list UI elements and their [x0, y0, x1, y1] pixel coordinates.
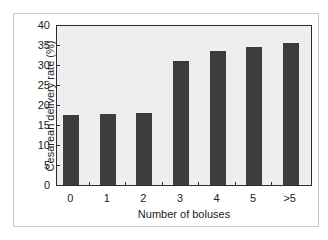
y-tick [56, 125, 60, 126]
y-tick [56, 25, 60, 26]
x-tick [198, 182, 199, 186]
y-tick-label: 35 [20, 40, 50, 51]
x-tick [89, 182, 90, 186]
x-tick [235, 182, 236, 186]
bar-2 [136, 113, 152, 185]
y-tick [56, 165, 60, 166]
x-tick [162, 182, 163, 186]
y-tick [56, 145, 60, 146]
x-tick-label: 3 [170, 192, 190, 204]
y-tick-label: 30 [20, 60, 50, 71]
y-tick-label: 15 [20, 120, 50, 131]
y-tick [56, 105, 60, 106]
y-tick [56, 85, 60, 86]
bar->5 [283, 43, 299, 185]
y-tick-label: 20 [20, 100, 50, 111]
bar-5 [246, 47, 262, 185]
x-tick-label: 4 [207, 192, 227, 204]
y-tick [56, 45, 60, 46]
y-tick-label: 25 [20, 80, 50, 91]
x-tick-label: 2 [133, 192, 153, 204]
y-tick [56, 65, 60, 66]
x-tick [125, 182, 126, 186]
bar-1 [100, 114, 116, 185]
y-tick-label: 0 [20, 180, 50, 191]
x-axis-label: Number of boluses [56, 208, 312, 220]
x-tick-label: 0 [60, 192, 80, 204]
plot-area [56, 25, 312, 186]
y-tick-label: 40 [20, 20, 50, 31]
y-tick-label: 5 [20, 160, 50, 171]
y-tick [56, 185, 60, 186]
x-tick-label: 5 [243, 192, 263, 204]
y-tick-label: 10 [20, 140, 50, 151]
bar-3 [173, 61, 189, 185]
bar-0 [63, 115, 79, 185]
x-tick-label: >5 [280, 192, 300, 204]
x-tick-label: 1 [97, 192, 117, 204]
bar-4 [210, 51, 226, 185]
x-tick [271, 182, 272, 186]
